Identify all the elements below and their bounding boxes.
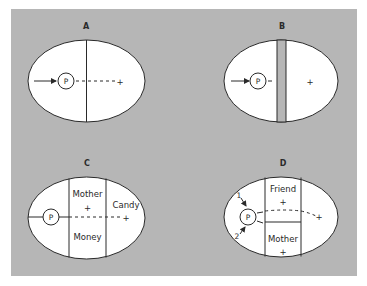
panel-d: D P 1 2 Friend + Mother + + <box>224 159 338 257</box>
panel-b: B P + <box>224 22 338 122</box>
lewin-field-diagram: A P + B P + C P Mother + Money Candy + <box>0 0 367 286</box>
goal-plus-d: + <box>315 212 322 222</box>
region-plus-friend-d: + <box>279 197 286 207</box>
panel-a: A P + <box>28 22 145 122</box>
goal-plus-b: + <box>306 77 313 87</box>
person-label-c: P <box>49 213 54 222</box>
barrier-b <box>277 40 286 122</box>
region-plus-mother-c: + <box>84 203 91 213</box>
region-label-candy-c: Candy <box>113 200 140 210</box>
region-label-mother-c: Mother <box>73 189 103 199</box>
panel-b-label: B <box>279 22 285 31</box>
person-label-a: P <box>64 77 69 86</box>
panel-c: C P Mother + Money Candy + <box>28 159 145 259</box>
panel-a-label: A <box>83 22 90 31</box>
goal-plus-c: + <box>122 213 129 223</box>
region-plus-mother-d: + <box>279 247 286 257</box>
region-label-friend-d: Friend <box>270 184 296 194</box>
panel-d-label: D <box>280 159 287 168</box>
force-label-1-d: 1 <box>237 191 242 200</box>
region-label-mother-d: Mother <box>268 234 298 244</box>
person-label-b: P <box>256 77 261 86</box>
panel-c-label: C <box>84 159 90 168</box>
force-label-2-d: 2 <box>235 232 240 241</box>
goal-plus-a: + <box>116 77 123 87</box>
person-label-d: P <box>246 213 251 222</box>
region-label-money-c: Money <box>73 232 101 242</box>
